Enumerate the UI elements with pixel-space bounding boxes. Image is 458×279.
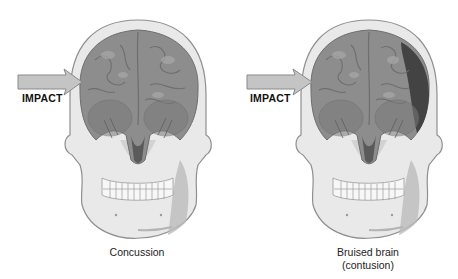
- caption-contusion: Bruised brain (contusion): [318, 246, 418, 272]
- caption-line: Bruised brain: [318, 246, 418, 259]
- panel-contusion: IMPACT Bruised brain (contusion): [229, 0, 458, 279]
- impact-label: IMPACT: [22, 92, 63, 104]
- caption-concussion: Concussion: [87, 246, 187, 259]
- caption-line: (contusion): [318, 259, 418, 272]
- caption-line: Concussion: [87, 246, 187, 259]
- panel-concussion: IMPACT Concussion: [0, 0, 229, 279]
- skull-brain-illustration: [0, 0, 229, 279]
- skull-brain-illustration: [229, 0, 458, 279]
- impact-label: IMPACT: [250, 92, 291, 104]
